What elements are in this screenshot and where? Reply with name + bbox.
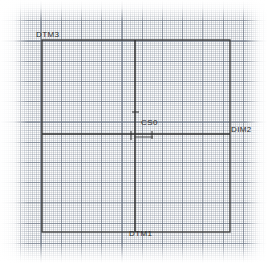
coordinate-system-label-cs0: CS0 xyxy=(141,119,158,127)
datum-label-dim2: DIM2 xyxy=(231,126,252,134)
datum-label-dtm1: DTM1 xyxy=(129,230,152,238)
part-outline-rectangle xyxy=(42,40,230,232)
ink-linework xyxy=(0,0,267,263)
drawing-canvas: DTM3 CS0 DIM2 DTM1 xyxy=(0,0,267,263)
datum-label-dtm3: DTM3 xyxy=(36,31,59,39)
